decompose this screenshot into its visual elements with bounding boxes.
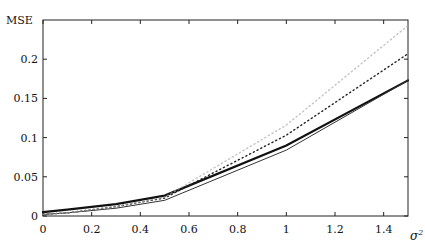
- x-tick-label: 0.8: [229, 223, 247, 236]
- x-tick-label: 1.2: [326, 223, 344, 236]
- y-tick-label: 0.2: [21, 53, 39, 66]
- series-light-dotted: [43, 26, 408, 215]
- y-tick-label: 0.1: [21, 132, 39, 145]
- x-tick-label: 0.6: [180, 223, 198, 236]
- x-tick-label: 1: [283, 223, 290, 236]
- y-axis-label: MSE: [6, 14, 33, 27]
- series-thick-solid: [43, 80, 408, 212]
- mse-chart: 00.20.40.60.811.21.400.050.10.150.2 MSE …: [0, 0, 425, 243]
- data-lines: [43, 26, 408, 215]
- series-dark-dotted: [43, 54, 408, 215]
- axis-ticks: 00.20.40.60.811.21.400.050.10.150.2: [14, 20, 409, 236]
- y-tick-label: 0.05: [14, 171, 39, 184]
- x-axis-label: σ2: [410, 228, 423, 243]
- series-thin-solid: [43, 80, 408, 214]
- y-tick-label: 0.15: [14, 92, 39, 105]
- plot-frame: [43, 20, 408, 216]
- x-tick-label: 1.4: [375, 223, 393, 236]
- x-tick-label: 0.4: [132, 223, 150, 236]
- x-tick-label: 0: [40, 223, 47, 236]
- x-tick-label: 0.2: [83, 223, 101, 236]
- y-tick-label: 0: [31, 210, 38, 223]
